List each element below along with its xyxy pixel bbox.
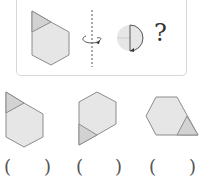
option-c-close-paren: ) [189, 156, 196, 177]
given-shape [32, 11, 69, 65]
rotation-axis-icon [83, 10, 101, 67]
option-b-shape[interactable] [79, 92, 116, 145]
option-b-open-paren: ( [76, 156, 83, 177]
option-a-close-paren: ) [44, 156, 51, 177]
option-a-open-paren: ( [4, 156, 11, 177]
figures-canvas [0, 0, 210, 182]
half-circle-icon [117, 25, 143, 52]
option-a-shape[interactable] [6, 92, 43, 147]
option-c-shape[interactable] [146, 97, 198, 135]
option-b-close-paren: ) [115, 156, 122, 177]
option-c-open-paren: ( [149, 156, 156, 177]
question-mark: ? [154, 19, 167, 47]
